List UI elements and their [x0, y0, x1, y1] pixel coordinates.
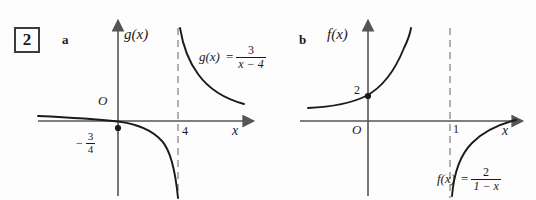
graph-b-formula-denominator: 1 − x	[471, 179, 500, 193]
graph-b-y-axis-label: f(x)	[327, 26, 348, 43]
graph-b-formula-numerator: 2	[480, 166, 492, 179]
graph-a-intercept-minus-sign: −	[76, 136, 83, 151]
graph-b-asymptote-tick-label: 1	[453, 122, 459, 137]
graph-b-formula-equals: =	[461, 171, 468, 187]
graph-a-formula: g(x) = 3 x − 4	[199, 44, 266, 70]
graph-a-formula-denominator: x − 4	[236, 57, 265, 71]
graph-a-left-branch	[38, 116, 178, 198]
graph-b-formula: f(x) = 2 1 − x	[437, 166, 501, 192]
graph-a-intercept-numerator: 3	[85, 131, 97, 143]
graph-b-x-axis-label: x	[502, 123, 508, 139]
graph-b-y-intercept-point	[365, 93, 371, 99]
graph-a-y-intercept-label: − 3 4	[76, 131, 96, 155]
graph-b-y-intercept-label: 2	[354, 83, 360, 98]
graph-a-x-axis-label: x	[232, 123, 238, 139]
graph-b-origin-label: O	[352, 122, 361, 138]
graph-a-formula-equals: =	[226, 49, 233, 65]
graph-b-formula-fraction: 2 1 − x	[471, 166, 500, 192]
graph-a-formula-numerator: 3	[245, 44, 257, 57]
graph-a-formula-fraction: 3 x − 4	[236, 44, 265, 70]
graph-a-y-intercept-point	[115, 125, 121, 131]
graph-a-intercept-fraction: 3 4	[85, 131, 97, 155]
graph-a-asymptote-tick-label: 4	[182, 124, 188, 139]
graph-b-formula-lhs: f(x)	[437, 171, 455, 187]
graph-a-formula-lhs: g(x)	[199, 49, 220, 65]
graph-a-y-axis-label: g(x)	[124, 26, 148, 43]
graph-a-origin-label: O	[98, 93, 107, 109]
figure-container: 2 a b	[0, 0, 536, 200]
graph-a-intercept-denominator: 4	[86, 143, 96, 156]
